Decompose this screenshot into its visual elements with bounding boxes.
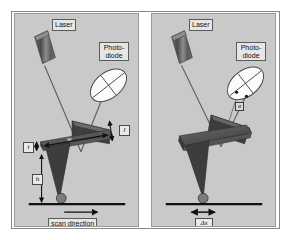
scan-direction-label: scan direction <box>48 218 97 227</box>
laser-label: Laser <box>52 19 76 31</box>
dimension-label-t: t <box>23 142 34 153</box>
probe-tip <box>46 143 71 200</box>
beam-shift-angle-label: α <box>235 102 244 111</box>
figure-root: Laser Photo- diode t w l h scan directio… <box>0 0 293 240</box>
lateral-displacement-label: Δs <box>195 218 213 227</box>
dimension-label-w: w <box>67 135 72 143</box>
photodiode-detector <box>84 62 132 108</box>
laser-source <box>35 31 56 64</box>
tip-apex-sphere <box>198 193 208 203</box>
laser-source <box>172 31 193 64</box>
probe-tip-twisted <box>185 141 209 198</box>
dimension-label-h: h <box>32 174 43 185</box>
photodiode-label-line1: Photo- <box>104 44 125 51</box>
laser-label: Laser <box>189 19 213 31</box>
dimension-label-l: l <box>119 125 130 136</box>
photodiode-label-line1: Photo- <box>241 44 262 51</box>
tip-apex-sphere <box>56 193 66 203</box>
panel-undeflected-cantilever: Laser Photo- diode t w l h scan directio… <box>14 13 139 227</box>
photodiode-label-line2: diode <box>105 52 122 59</box>
figure-frame: Laser Photo- diode t w l h scan directio… <box>11 11 280 229</box>
reference-beam-spot <box>235 91 238 94</box>
panel-deflected-cantilever: Laser Photo- diode α Δs <box>151 13 276 227</box>
photodiode-detector <box>221 60 269 106</box>
deflected-beam-spot <box>245 95 248 98</box>
photodiode-label: Photo- diode <box>99 42 129 61</box>
photodiode-label-line2: diode <box>242 52 259 59</box>
photodiode-label: Photo- diode <box>236 42 266 61</box>
